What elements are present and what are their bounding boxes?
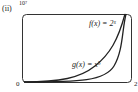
f-curve-label: f(x) = 2ˣ <box>89 20 116 28</box>
chart-plot <box>0 0 138 92</box>
part-label: (ii) <box>2 5 12 13</box>
x-min-tick-label: 0 <box>16 81 20 88</box>
y-max-tick-label: 10⁷ <box>19 0 27 6</box>
g-curve-label: g(x) = x⁵ <box>72 61 101 69</box>
x-max-tick-label: 2 <box>134 81 138 88</box>
